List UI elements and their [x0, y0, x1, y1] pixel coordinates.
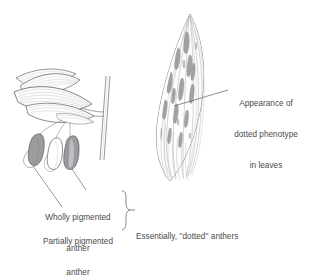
- tepals: [14, 69, 94, 124]
- label-leaf-line3: in leaves: [224, 161, 308, 171]
- label-essentially-dotted-anthers: Essentially, ''dotted'' anthers: [136, 211, 306, 263]
- flower-sprig: [14, 69, 110, 207]
- label-leaf-dotted-phenotype: Appearance of dotted phenotype in leaves: [224, 78, 308, 192]
- label-partially-pigmented-anther: Partially pigmented anther: [28, 216, 128, 279]
- stem: [100, 76, 110, 160]
- anther-unpigmented: [44, 138, 62, 172]
- label-partially-line2: anther: [28, 268, 128, 278]
- label-leaf-line1: Appearance of: [224, 99, 308, 109]
- leader-line-wholly-anther: [72, 169, 86, 190]
- anther-partially-pigmented: [64, 136, 79, 170]
- anther-wholly-pigmented: [24, 134, 45, 168]
- label-essentially-text: Essentially, ''dotted'' anthers: [136, 232, 306, 242]
- dotted-leaf-blade: [157, 14, 229, 181]
- label-leaf-line2: dotted phenotype: [224, 130, 308, 140]
- label-partially-line1: Partially pigmented: [28, 237, 128, 247]
